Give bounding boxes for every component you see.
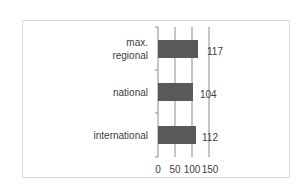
x-tick-100: 100 xyxy=(184,164,201,175)
x-tick-0: 0 xyxy=(155,164,161,175)
bar-international xyxy=(158,126,196,144)
category-label-max: max. xyxy=(126,37,148,48)
category-label-national: national xyxy=(113,87,148,98)
bar-max-regional xyxy=(158,40,198,58)
data-label-national: 104 xyxy=(200,89,217,100)
x-tick-150: 150 xyxy=(202,164,219,175)
data-label-max-regional: 117 xyxy=(207,46,223,57)
data-label-international: 112 xyxy=(202,132,218,143)
x-tick-50: 50 xyxy=(169,164,181,175)
bar-national xyxy=(158,83,193,101)
category-label-regional: regional xyxy=(112,50,148,61)
category-label-international: international xyxy=(94,130,148,141)
bar-chart: 117 104 112 max. regional national inter… xyxy=(0,0,303,190)
